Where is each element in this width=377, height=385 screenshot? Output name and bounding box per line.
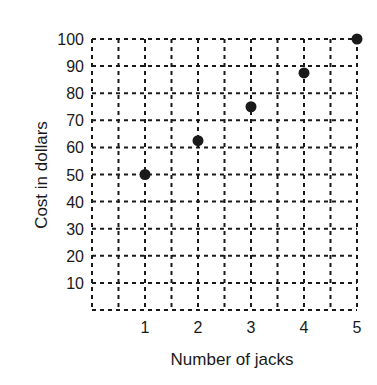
grid-lines: [92, 39, 357, 310]
x-tick-label: 5: [353, 319, 362, 336]
data-point: [352, 34, 363, 45]
y-tick-label: 70: [66, 112, 84, 129]
data-point: [140, 169, 151, 180]
data-point: [193, 135, 204, 146]
scatter-chart: 102030405060708090100 12345 Cost in doll…: [0, 0, 377, 385]
y-tick-label: 40: [66, 194, 84, 211]
data-point: [246, 101, 257, 112]
y-tick-label: 10: [66, 275, 84, 292]
y-tick-label: 90: [66, 58, 84, 75]
y-tick-label: 50: [66, 167, 84, 184]
x-tick-label: 3: [247, 319, 256, 336]
y-tick-label: 80: [66, 85, 84, 102]
x-tick-label: 1: [141, 319, 150, 336]
x-tick-label: 4: [300, 319, 309, 336]
x-axis-ticks: 12345: [141, 319, 362, 336]
y-tick-label: 30: [66, 221, 84, 238]
y-axis-ticks: 102030405060708090100: [57, 31, 84, 292]
x-axis-label: Number of jacks: [171, 350, 294, 369]
y-tick-label: 60: [66, 139, 84, 156]
y-tick-label: 20: [66, 248, 84, 265]
y-tick-label: 100: [57, 31, 84, 48]
x-tick-label: 2: [194, 319, 203, 336]
data-point: [299, 67, 310, 78]
y-axis-label: Cost in dollars: [32, 121, 51, 229]
